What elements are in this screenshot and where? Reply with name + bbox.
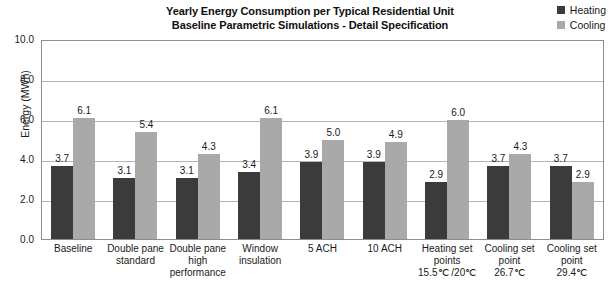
bar-pair: 3.46.1	[229, 41, 291, 239]
x-axis-category-label: Windowinsulation	[229, 243, 291, 297]
chart-legend: Heating Cooling	[557, 4, 606, 31]
bar-value-label: 2.9	[429, 169, 443, 180]
bar-cooling[interactable]: 6.1	[260, 118, 282, 239]
bar-cooling[interactable]: 5.4	[135, 132, 157, 239]
bar-heating[interactable]: 3.7	[51, 166, 73, 239]
bar-group: 3.15.4	[104, 41, 166, 239]
x-axis-category-label: 10 ACH	[354, 243, 416, 297]
bar-value-label: 4.3	[202, 141, 216, 152]
bar-value-label: 5.0	[327, 127, 341, 138]
bar-heating[interactable]: 3.9	[300, 162, 322, 239]
y-axis-tick-label: 0.0	[20, 235, 34, 245]
bar-value-label: 6.1	[77, 105, 91, 116]
bar-value-label: 3.1	[180, 165, 194, 176]
bar-groups: 3.76.13.15.43.14.33.46.13.95.03.94.92.96…	[42, 41, 603, 239]
x-axis-category-line: 15.5℃ /20℃	[417, 267, 477, 279]
bar-cooling[interactable]: 5.0	[322, 140, 344, 239]
bar-group: 3.74.3	[478, 41, 540, 239]
bar-value-label: 5.4	[140, 119, 154, 130]
x-axis-category-label: Cooling setpoint29.4℃	[541, 243, 603, 297]
bar-value-label: 3.1	[118, 165, 132, 176]
x-axis-category-line: point	[479, 255, 539, 267]
x-axis-category-line: Cooling set	[479, 243, 539, 255]
x-axis-category-line: Heating set	[417, 243, 477, 255]
bar-cooling[interactable]: 4.9	[385, 142, 407, 239]
bar-cooling[interactable]: 6.1	[73, 118, 95, 239]
bar-value-label: 3.7	[554, 153, 568, 164]
bar-pair: 3.95.0	[291, 41, 353, 239]
bar-group: 3.76.1	[42, 41, 104, 239]
x-axis-category-line: insulation	[230, 255, 290, 267]
bar-pair: 3.72.9	[541, 41, 603, 239]
bar-cooling[interactable]: 2.9	[572, 182, 594, 239]
x-axis-category-label: Double panestandard	[104, 243, 166, 297]
bar-value-label: 3.7	[55, 153, 69, 164]
x-axis-category-line: Double pane	[168, 243, 228, 255]
bar-value-label: 6.0	[451, 107, 465, 118]
bar-value-label: 3.9	[305, 149, 319, 160]
page-title: Yearly Energy Consumption per Typical Re…	[110, 4, 510, 18]
x-axis-labels: BaselineDouble panestandardDouble panehi…	[42, 243, 603, 297]
bar-value-label: 3.4	[242, 159, 256, 170]
x-axis-category-line: Cooling set	[542, 243, 602, 255]
bar-pair: 3.74.3	[478, 41, 540, 239]
x-axis-category-line: Baseline	[43, 243, 103, 255]
legend-item-heating: Heating	[557, 4, 606, 16]
bar-value-label: 3.9	[367, 149, 381, 160]
bar-value-label: 6.1	[264, 105, 278, 116]
bar-heating[interactable]: 3.9	[363, 162, 385, 239]
bar-pair: 3.94.9	[354, 41, 416, 239]
x-axis-category-line: 29.4℃	[542, 267, 602, 279]
x-axis-category-line: 5 ACH	[292, 243, 352, 255]
bar-heating[interactable]: 3.7	[487, 166, 509, 239]
bar-group: 3.72.9	[541, 41, 603, 239]
bar-heating[interactable]: 2.9	[425, 182, 447, 239]
x-axis-category-label: Cooling setpoint26.7℃	[478, 243, 540, 297]
x-axis-category-line: Double pane	[105, 243, 165, 255]
legend-swatch-cooling-icon	[557, 21, 565, 29]
bar-group: 2.96.0	[416, 41, 478, 239]
x-axis-category-line: standard	[105, 255, 165, 267]
x-axis-category-line: 10 ACH	[355, 243, 415, 255]
x-axis-category-line: point	[542, 255, 602, 267]
x-axis-category-line: performance	[168, 267, 228, 279]
y-axis-tick-label: 6.0	[20, 115, 34, 125]
bar-group: 3.94.9	[354, 41, 416, 239]
x-axis-category-line: Window	[230, 243, 290, 255]
legend-item-cooling: Cooling	[557, 19, 606, 31]
bar-pair: 2.96.0	[416, 41, 478, 239]
bar-value-label: 2.9	[576, 169, 590, 180]
bar-cooling[interactable]: 6.0	[447, 120, 469, 239]
bar-cooling[interactable]: 4.3	[509, 154, 531, 239]
x-axis-category-label: Heating setpoints15.5℃ /20℃	[416, 243, 478, 297]
bar-pair: 3.76.1	[42, 41, 104, 239]
chart-subtitle: Baseline Parametric Simulations - Detail…	[110, 18, 510, 32]
y-axis-ticks: 0.02.04.06.08.010.0	[0, 40, 38, 240]
bar-value-label: 4.9	[389, 129, 403, 140]
bar-value-label: 3.7	[492, 153, 506, 164]
x-axis-category-label: 5 ACH	[291, 243, 353, 297]
y-axis-tick-label: 10.0	[15, 35, 34, 45]
y-axis-tick-label: 2.0	[20, 195, 34, 205]
x-axis-category-label: Baseline	[42, 243, 104, 297]
bar-cooling[interactable]: 4.3	[198, 154, 220, 239]
x-axis-category-label: Double panehighperformance	[167, 243, 229, 297]
legend-label-cooling: Cooling	[570, 19, 606, 31]
bar-heating[interactable]: 3.1	[113, 178, 135, 239]
x-axis-category-line: 26.7℃	[479, 267, 539, 279]
bar-group: 3.95.0	[291, 41, 353, 239]
y-axis-tick-label: 8.0	[20, 75, 34, 85]
bar-value-label: 4.3	[514, 141, 528, 152]
x-axis-category-line: points	[417, 255, 477, 267]
bar-heating[interactable]: 3.4	[238, 172, 260, 239]
x-axis-category-line: high	[168, 255, 228, 267]
legend-label-heating: Heating	[570, 4, 606, 16]
legend-swatch-heating-icon	[557, 6, 565, 14]
bar-heating[interactable]: 3.1	[176, 178, 198, 239]
y-axis-tick-label: 4.0	[20, 155, 34, 165]
bar-heating[interactable]: 3.7	[550, 166, 572, 239]
bar-pair: 3.14.3	[167, 41, 229, 239]
chart-container: Yearly Energy Consumption per Typical Re…	[0, 0, 612, 297]
bar-group: 3.14.3	[167, 41, 229, 239]
bar-group: 3.46.1	[229, 41, 291, 239]
